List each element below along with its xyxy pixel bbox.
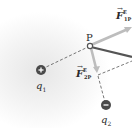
vector-arrow-glyph: → (117, 6, 123, 13)
vector-superscript: E (123, 9, 127, 15)
vector-arrow-glyph: → (77, 64, 83, 71)
vector-net-shaft (91, 47, 132, 57)
vector-subscript: 2P (84, 74, 91, 80)
charge-q2-label: q2 (101, 115, 111, 127)
field-diagram (0, 0, 132, 128)
vector-subscript: 1P (124, 16, 131, 22)
point-p-marker (87, 43, 92, 48)
vector-f1p-label: →FE1P (116, 11, 131, 21)
vector-f1p-shaft (91, 29, 128, 45)
point-p-label: P (86, 33, 93, 43)
vector-f2p-label: →FE2P (76, 69, 91, 79)
charge-subscript: 1 (42, 86, 46, 93)
vector-f2p-shaft (91, 48, 96, 68)
dashed-line-to-q2 (98, 76, 105, 102)
vector-f2p-arrowhead (93, 66, 100, 73)
vector-superscript: E (83, 67, 87, 73)
charge-subscript: 2 (107, 120, 111, 127)
charge-q1-label: q1 (36, 81, 46, 93)
dashed-line-parallelogram-right (98, 61, 132, 75)
